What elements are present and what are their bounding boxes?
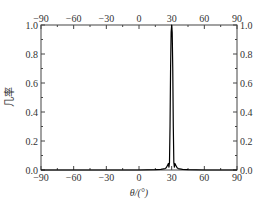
y-tick-label: 0.6 (26, 78, 39, 89)
x-top-tick-label: 60 (199, 13, 209, 24)
x-top-tick-label: 0 (137, 13, 142, 24)
plot-border (41, 25, 237, 170)
y-axis-left-tick-labels: 0.00.20.40.60.81.0 (26, 20, 39, 176)
x-tick-label: 30 (167, 172, 177, 183)
x-tick-label: −30 (99, 172, 115, 183)
y-tick-label: 0.4 (26, 107, 39, 118)
x-axis-top-tick-labels: −90−60−300306090 (33, 13, 242, 24)
x-axis-label: θ/(°) (130, 187, 149, 199)
y-right-tick-label: 0.0 (240, 165, 253, 176)
y-right-tick-label: 0.6 (240, 78, 253, 89)
y-right-tick-label: 0.4 (240, 107, 253, 118)
x-tick-label: 60 (199, 172, 209, 183)
probability-chart: −90−60−300306090 −90−60−300306090 0.00.2… (0, 0, 263, 203)
y-tick-label: 0.8 (26, 49, 39, 60)
y-right-tick-label: 0.2 (240, 136, 253, 147)
y-right-tick-label: 1.0 (240, 20, 253, 31)
data-series (41, 25, 237, 170)
x-tick-label: 0 (137, 172, 142, 183)
y-right-tick-label: 0.8 (240, 49, 253, 60)
x-top-tick-label: 30 (167, 13, 177, 24)
y-axis-label: 几率 (3, 87, 15, 107)
y-axis-right-tick-labels: 0.00.20.40.60.81.0 (240, 20, 253, 176)
plot-frame (41, 25, 237, 170)
x-top-tick-label: −30 (99, 13, 115, 24)
axis-ticks (41, 25, 237, 170)
y-tick-label: 1.0 (26, 20, 39, 31)
y-tick-label: 0.0 (26, 165, 39, 176)
x-top-tick-label: −60 (66, 13, 82, 24)
y-tick-label: 0.2 (26, 136, 39, 147)
x-axis-bottom-tick-labels: −90−60−300306090 (33, 172, 242, 183)
probability-curve (41, 25, 237, 170)
x-tick-label: −60 (66, 172, 82, 183)
